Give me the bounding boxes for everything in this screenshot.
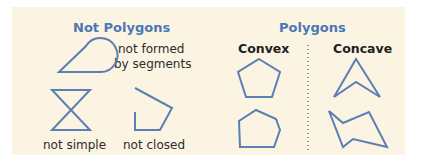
zigzag-shape: [329, 111, 387, 147]
arrowhead-shape: [334, 59, 380, 97]
teardrop-shape: [59, 38, 117, 72]
open-pentagon-shape: [135, 88, 172, 130]
shapes-layer: [0, 0, 421, 167]
hexagon-shape: [239, 110, 280, 147]
hourglass-shape: [52, 90, 90, 130]
pentagon-shape: [238, 59, 280, 97]
